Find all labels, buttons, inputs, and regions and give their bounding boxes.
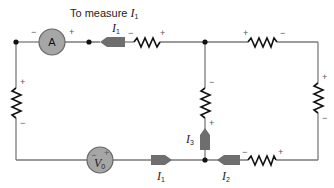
resistor-middle <box>201 88 210 118</box>
top-right-resistor-minus: − <box>280 28 285 38</box>
node-bottom-middle <box>202 157 207 162</box>
current-arrow-bottom-i1 <box>151 155 172 165</box>
current-label-i2: I2 <box>221 169 230 183</box>
voltage-source: − + V0 <box>87 147 113 173</box>
left-resistor-minus: − <box>20 118 25 128</box>
diagram-title: To measure I1 <box>70 6 139 20</box>
resistor-right <box>314 83 323 113</box>
right-resistor-minus: − <box>322 113 327 123</box>
resistor-left <box>12 88 21 118</box>
current-arrow-i3 <box>200 128 210 150</box>
current-label-i3: I3 <box>185 132 194 146</box>
current-arrow-top-i1 <box>100 37 125 47</box>
top-right-resistor-plus: + <box>243 28 248 38</box>
bottom-resistor-minus: − <box>242 147 247 157</box>
top-resistor-minus: − <box>128 28 133 38</box>
resistor-top-right <box>248 38 277 47</box>
current-label-top-i1: I1 <box>111 21 120 35</box>
middle-resistor-minus: − <box>209 77 214 87</box>
left-resistor-plus: + <box>20 77 25 87</box>
current-label-bottom-i1: I1 <box>156 169 165 183</box>
circuit-diagram: To measure I1 A − + I1 − + + − + − − + <box>0 0 334 188</box>
current-arrow-i2 <box>217 155 240 165</box>
node-top-middle <box>202 39 207 44</box>
ammeter-minus: − <box>31 27 36 37</box>
bottom-resistor-plus: + <box>278 147 283 157</box>
top-resistor-plus: + <box>160 28 165 38</box>
source-plus: + <box>104 148 109 158</box>
node-top-left <box>13 39 18 44</box>
node-ammeter-terminal <box>86 39 91 44</box>
resistor-bottom <box>248 156 276 165</box>
resistor-top-left <box>134 38 160 47</box>
right-resistor-plus: + <box>322 72 327 82</box>
ammeter-plus: + <box>69 27 74 37</box>
ammeter: A − + <box>31 27 74 55</box>
middle-resistor-plus: + <box>209 118 214 128</box>
ammeter-label: A <box>48 36 56 48</box>
